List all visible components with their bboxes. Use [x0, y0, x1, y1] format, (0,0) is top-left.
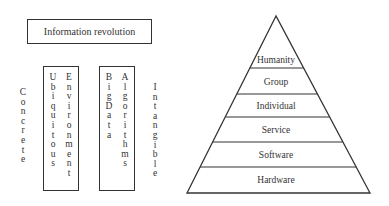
pyramid-layer-group: Group — [264, 77, 289, 87]
pyramid-layer-humanity: Humanity — [257, 55, 295, 65]
pyramid-layer-service: Service — [262, 125, 291, 135]
pyramid-layer-software: Software — [259, 150, 293, 160]
pyramid-layer-hardware: Hardware — [257, 175, 294, 185]
pyramid-layer-individual: Individual — [256, 101, 295, 111]
pyramid-diagram: Humanity Group Individual Service Softwa… — [0, 0, 389, 206]
pyramid-layer-labels: Humanity Group Individual Service Softwa… — [256, 55, 295, 185]
